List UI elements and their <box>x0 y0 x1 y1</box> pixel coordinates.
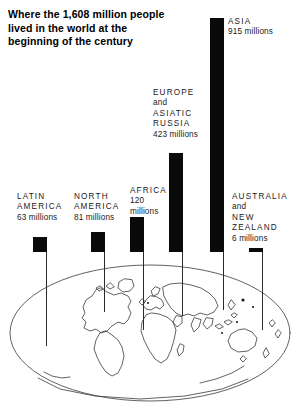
label-latin-america: LATINAMERICA63 millions <box>17 192 62 223</box>
bar-asia <box>210 18 224 252</box>
label-africa-value-1: 120 <box>130 196 167 206</box>
label-australia-new-zealand: AUSTRALIAandNEWZEALAND6 millions <box>232 192 288 244</box>
map-island-archipelago-2 <box>224 320 232 325</box>
label-north-america-name-2: AMERICA <box>74 202 119 212</box>
label-africa: AFRICA120millions <box>130 186 167 217</box>
connector-line-latin-america <box>46 252 47 346</box>
label-north-america-name-1: NORTH <box>74 192 119 202</box>
bar-latin-america <box>33 237 47 252</box>
map-antarctic-peninsula <box>44 372 70 378</box>
map-dot-4 <box>221 332 223 334</box>
label-europe-asiatic-russia-name-3: ASIATIC <box>153 109 198 119</box>
bar-europe-asiatic-russia <box>169 153 183 252</box>
label-australia-new-zealand-name-4: ZEALAND <box>232 223 288 233</box>
label-europe-asiatic-russia-name-4: RUSSIA <box>153 119 198 129</box>
label-north-america: NORTHAMERICA81 millions <box>74 192 119 223</box>
label-europe-asiatic-russia-value: 423 millions <box>153 130 198 140</box>
continent-greenland <box>118 279 134 292</box>
map-island-scandinavia <box>151 287 160 296</box>
label-asia: ASIA915 millions <box>228 17 273 38</box>
connector-line-africa <box>143 252 144 330</box>
bar-africa <box>130 217 144 252</box>
label-australia-new-zealand-name-2: and <box>232 202 288 212</box>
map-subcontinent-india <box>191 318 201 332</box>
map-island-archipelago-1 <box>215 324 223 329</box>
connector-line-north-america <box>104 252 105 312</box>
connector-line-europe-asiatic-russia <box>182 252 183 316</box>
label-asia-value: 915 millions <box>228 27 273 37</box>
label-africa-name-1: AFRICA <box>130 186 167 196</box>
label-australia-new-zealand-value: 6 millions <box>232 234 288 244</box>
map-island-tasmania <box>240 356 246 362</box>
map-island-pacific-2 <box>275 330 281 338</box>
map-dot-3 <box>236 321 238 323</box>
bar-australia-new-zealand <box>249 248 263 252</box>
label-europe-asiatic-russia: EUROPEandASIATICRUSSIA423 millions <box>153 88 198 140</box>
label-asia-name-1: ASIA <box>228 17 273 27</box>
label-latin-america-name-1: LATIN <box>17 192 62 202</box>
connector-line-asia <box>223 252 224 310</box>
map-island-madagascar <box>177 344 184 356</box>
label-africa-value-2: millions <box>130 207 167 217</box>
continent-africa <box>141 313 176 363</box>
map-peninsula-sea-asia <box>203 318 213 329</box>
map-dot-5 <box>147 302 149 304</box>
label-australia-new-zealand-name-1: AUSTRALIA <box>232 192 288 202</box>
infographic-canvas: Where the 1,608 million people lived in … <box>0 0 301 413</box>
map-dot-2 <box>252 306 254 308</box>
map-island-britain <box>139 299 145 305</box>
label-north-america-value: 81 millions <box>74 213 119 223</box>
continent-europe <box>143 296 164 310</box>
label-latin-america-name-2: AMERICA <box>17 202 62 212</box>
bar-north-america <box>91 232 105 252</box>
continent-south-america <box>94 331 124 376</box>
continent-north-america <box>82 288 131 333</box>
label-europe-asiatic-russia-name-1: EUROPE <box>153 88 198 98</box>
label-latin-america-value: 63 millions <box>17 213 62 223</box>
map-island-new-zealand <box>263 348 269 358</box>
map-dot-1 <box>241 298 244 301</box>
map-oval-outline <box>10 265 290 401</box>
map-antarctic-coast-right <box>200 366 244 383</box>
label-australia-new-zealand-name-3: NEW <box>232 213 288 223</box>
map-island-arctic-1 <box>106 283 114 289</box>
continent-australia <box>228 329 257 352</box>
connector-line-australia-new-zealand <box>262 252 263 330</box>
continent-asia <box>163 283 218 316</box>
map-island-archipelago-3 <box>231 313 237 318</box>
map-island-japan <box>228 300 235 310</box>
label-europe-asiatic-russia-name-2: and <box>153 98 198 108</box>
map-island-pacific-1 <box>269 320 275 327</box>
